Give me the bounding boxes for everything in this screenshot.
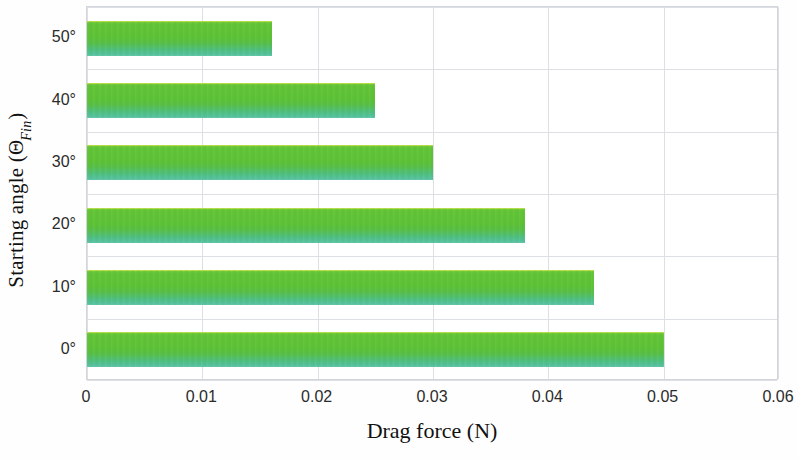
- bar: [87, 83, 375, 118]
- x-axis-tick-label: 0.06: [762, 388, 793, 406]
- y-axis-tick-label: 30°: [24, 153, 76, 171]
- x-axis-tick-label: 0.01: [186, 388, 217, 406]
- gridline-vertical: [778, 7, 779, 379]
- bar: [87, 21, 272, 56]
- y-axis-tick-label: 20°: [24, 215, 76, 233]
- y-axis-tick-label: 40°: [24, 91, 76, 109]
- x-axis-tick-label: 0: [82, 388, 91, 406]
- bars-layer: [87, 7, 777, 379]
- x-axis-tick-label: 0.02: [301, 388, 332, 406]
- x-axis-tick-label: 0.04: [532, 388, 563, 406]
- y-axis-tick-label: 10°: [24, 278, 76, 296]
- plot-area: [86, 6, 778, 380]
- bar: [87, 208, 525, 243]
- gridline-horizontal: [87, 380, 777, 381]
- x-axis-tick-labels: 00.010.020.030.040.050.06: [0, 388, 798, 414]
- x-axis-title: Drag force (N): [86, 418, 778, 444]
- x-axis-tick-label: 0.03: [416, 388, 447, 406]
- y-axis-tick-label: 50°: [24, 28, 76, 46]
- x-axis-tick-label: 0.05: [647, 388, 678, 406]
- bar: [87, 270, 594, 305]
- bar: [87, 332, 664, 367]
- y-axis-tick-label: 0°: [24, 340, 76, 358]
- bar: [87, 145, 433, 180]
- bar-chart-figure: Starting angle (ΘFin) 50°40°30°20°10°0° …: [0, 0, 798, 459]
